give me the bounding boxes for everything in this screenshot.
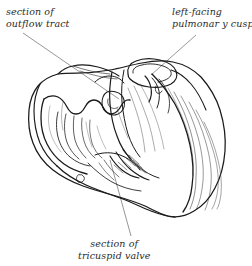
label-outflow-line1: section of xyxy=(6,6,54,17)
left-inner-mass-4 xyxy=(82,118,95,158)
trabecular-scallop-border xyxy=(44,96,130,114)
pulmonary-root-rim xyxy=(128,59,177,88)
anatomical-figure: section of outflow tract left-facing pul… xyxy=(0,0,252,266)
label-section-of-outflow-tract: section of outflow tract xyxy=(6,6,70,29)
texture-5 xyxy=(62,102,64,130)
inferior-border xyxy=(57,166,175,217)
septal-muscular-ridge xyxy=(95,76,124,83)
right-ventricular-wall xyxy=(152,74,193,212)
label-tricuspid-line1: section of xyxy=(90,238,138,249)
left-facing-pulmonary-cusp xyxy=(145,76,151,102)
label-pulmonary-line1: left-facing xyxy=(172,6,222,17)
central-texture xyxy=(49,84,165,152)
heart-specimen-illustration xyxy=(0,0,252,266)
label-tricuspid-line2: tricuspid valve xyxy=(78,250,151,262)
texture-2 xyxy=(134,86,155,151)
texture-8 xyxy=(86,122,92,147)
specimen-outline-group xyxy=(29,59,226,217)
striation-5 xyxy=(204,122,221,209)
label-section-of-tricuspid-valve: section of tricuspid valve xyxy=(78,238,151,261)
left-inner-mass-5 xyxy=(90,120,102,158)
texture-1 xyxy=(128,88,145,152)
texture-4 xyxy=(117,108,128,138)
left-chamber-cut-face xyxy=(41,99,87,174)
label-outflow-line2: outflow tract xyxy=(6,18,70,30)
texture-3 xyxy=(140,84,164,149)
tricuspid-chordae-1 xyxy=(104,160,119,177)
striation-6 xyxy=(168,88,193,175)
left-inner-mass-2 xyxy=(65,114,80,159)
left-inner-mass-3 xyxy=(73,116,86,158)
label-pulmonary-line2: pulmonar y cusp xyxy=(172,18,252,30)
texture-6 xyxy=(49,106,62,152)
striation-4 xyxy=(196,110,218,209)
texture-7 xyxy=(97,126,106,149)
leader-line-pulmonary xyxy=(151,35,196,75)
lower-left-nodule xyxy=(77,175,85,182)
label-left-facing-pulmonary-cusp: left-facing pulmonar y cusp xyxy=(172,6,252,29)
pulmonary-root-inner xyxy=(133,64,171,82)
